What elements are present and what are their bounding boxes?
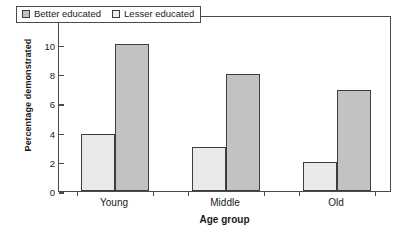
- legend-swatch: [112, 10, 120, 18]
- y-axis-tick-mark: [59, 46, 64, 47]
- bar: [226, 74, 260, 191]
- bar: [303, 162, 337, 191]
- y-axis-tick-mark: [59, 104, 64, 105]
- bar-group: [281, 17, 392, 191]
- x-axis-tick-mark: [299, 191, 300, 196]
- y-axis-title: Percentage demonstrated: [23, 5, 33, 185]
- chart-legend: Better educatedLesser educated: [16, 6, 201, 23]
- x-axis-tick-mark: [153, 191, 154, 196]
- x-axis-title: Age group: [58, 214, 391, 225]
- y-axis-tick-label: 0: [50, 188, 59, 198]
- bar: [337, 90, 371, 191]
- y-axis-tick-mark: [59, 75, 64, 76]
- y-axis-tick-mark: [59, 192, 64, 193]
- y-axis-tick-label: 2: [50, 159, 59, 169]
- bar: [192, 147, 226, 191]
- y-axis-tick-label: 6: [50, 100, 59, 110]
- legend-label: Better educated: [34, 9, 101, 19]
- x-axis-category-label: Young: [100, 197, 128, 208]
- y-axis-tick-mark: [59, 163, 64, 164]
- x-axis-tick-mark: [188, 191, 189, 196]
- bar: [81, 134, 115, 191]
- legend-entry: Lesser educated: [112, 9, 194, 19]
- x-axis-tick-mark: [375, 191, 376, 196]
- legend-entry: Better educated: [22, 9, 101, 19]
- legend-label: Lesser educated: [124, 9, 194, 19]
- y-axis-tick-label: 4: [50, 130, 59, 140]
- bar: [115, 44, 149, 191]
- bar-group: [170, 17, 281, 191]
- y-axis-tick-mark: [59, 134, 64, 135]
- x-axis-category-label: Old: [328, 197, 344, 208]
- bar-group: [59, 17, 170, 191]
- plot-area: 024681012: [58, 16, 391, 192]
- y-axis-tick-label: 10: [44, 42, 59, 52]
- bar-chart: Percentage demonstrated 024681012 YoungM…: [0, 0, 409, 235]
- x-axis-tick-mark: [264, 191, 265, 196]
- bars-layer: [59, 17, 390, 191]
- x-axis-tick-mark: [77, 191, 78, 196]
- y-axis-tick-label: 8: [50, 71, 59, 81]
- legend-swatch: [22, 10, 30, 18]
- x-axis-category-label: Middle: [210, 197, 239, 208]
